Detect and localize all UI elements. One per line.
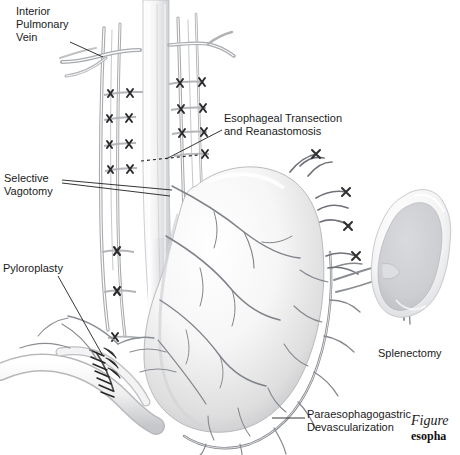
label-splenectomy: Splenectomy [378, 347, 442, 360]
figure-caption: Figure esopha [411, 413, 460, 443]
label-pyloroplasty: Pyloroplasty [3, 262, 63, 275]
label-esophageal-transection: Esophageal Transection and Reanastomosis [224, 112, 342, 138]
label-inferior-pulmonary-vein: Interior Pulmonary Vein [16, 5, 69, 45]
leader-pyloroplasty [58, 276, 103, 356]
figure-caption-text: esopha [411, 429, 460, 443]
duodenum [0, 351, 156, 426]
spleen [371, 190, 450, 318]
figure-caption-number: Figure [411, 413, 460, 429]
label-paraesophagogastric-devascularization: Paraesophagogastric Devascularization [307, 408, 411, 434]
figure-container: Interior Pulmonary Vein Esophageal Trans… [0, 0, 460, 455]
label-selective-vagotomy: Selective Vagotomy [4, 172, 53, 198]
leader-inferior-pulmonary-vein [70, 42, 103, 57]
anatomy-illustration [0, 0, 460, 455]
